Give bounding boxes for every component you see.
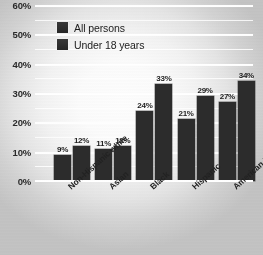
y-axis-tick-label: 40% (0, 58, 31, 69)
y-axis-tick-label: 50% (0, 29, 31, 40)
legend-label: Under 18 years (74, 39, 144, 51)
bar (136, 111, 153, 181)
y-axis-tick-label: 10% (0, 146, 31, 157)
y-axis-tick-label: 20% (0, 117, 31, 128)
bar-value-label: 33% (149, 74, 179, 83)
bar (178, 119, 195, 181)
gridline-minor (35, 78, 253, 79)
y-axis-tick-label: 0% (0, 176, 31, 187)
legend-item-all-persons: All persons (57, 19, 144, 36)
y-axis-tick-label: 30% (0, 88, 31, 99)
legend-label: All persons (74, 22, 125, 34)
gridline-major (35, 5, 253, 7)
legend-swatch-icon (57, 22, 68, 33)
y-axis-tick-label: 60% (0, 0, 31, 11)
bar (155, 84, 172, 181)
legend-swatch-icon (57, 39, 68, 50)
chart-legend: All persons Under 18 years (57, 19, 144, 53)
legend-item-under-18-years: Under 18 years (57, 36, 144, 53)
bar-value-label: 34% (231, 71, 261, 80)
bar (54, 155, 71, 181)
bar-chart: 9%12%11%12%24%33%21%29%27%34% 0%10%20%30… (0, 0, 263, 255)
gridline-major (35, 64, 253, 66)
